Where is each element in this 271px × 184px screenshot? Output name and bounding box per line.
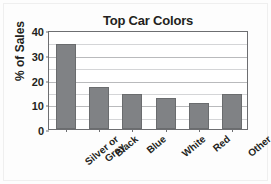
y-tick-label: 30 [32, 51, 44, 63]
x-tick-label: Red [211, 134, 232, 154]
chart-figure: Top Car Colors % of Sales 010203040 Silv… [0, 0, 271, 184]
y-tick-label: 20 [32, 76, 44, 88]
bar [156, 98, 176, 129]
x-tick-mark [232, 129, 233, 132]
bar [189, 103, 209, 129]
y-tick-mark [46, 131, 49, 132]
y-axis-title: % of Sales [13, 3, 27, 99]
y-tick-label: 10 [32, 100, 44, 112]
bar [122, 94, 142, 129]
bar [56, 44, 76, 129]
bar-series [49, 32, 247, 129]
x-tick-mark [199, 129, 200, 132]
x-tick-mark [166, 129, 167, 132]
chart-title: Top Car Colors [48, 13, 248, 28]
x-tick-mark [132, 129, 133, 132]
x-tick-label: White [180, 134, 207, 159]
y-tick-label: 40 [32, 26, 44, 38]
plot-area: 010203040 [48, 31, 248, 130]
bar [222, 94, 242, 129]
x-tick-label: Other [247, 134, 271, 159]
x-tick-mark [66, 129, 67, 132]
x-tick-mark [99, 129, 100, 132]
bar [89, 87, 109, 129]
y-tick-label: 0 [38, 125, 44, 137]
x-tick-label: Blue [145, 134, 168, 156]
